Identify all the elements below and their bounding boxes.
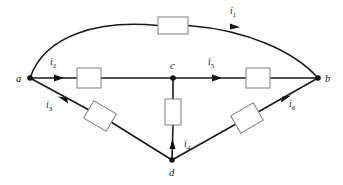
circuit-schematic-svg: i1 i2 i3 — [0, 0, 343, 185]
node-dot-d — [169, 157, 175, 163]
arrowhead-i1 — [230, 24, 240, 30]
wire-i3-lower — [111, 122, 172, 160]
resistor-i6 — [231, 103, 264, 133]
node-dot-b — [315, 75, 321, 81]
current-label-i2-subscript: 2 — [53, 62, 57, 70]
current-label-i6-subscript: 6 — [292, 104, 296, 112]
branch-i5: i5 — [173, 56, 318, 88]
current-label-i5: i5 — [208, 56, 215, 70]
arrowhead-i2 — [54, 75, 64, 82]
wire-i6-lower — [172, 124, 236, 160]
arrowhead-i5 — [212, 75, 222, 82]
circuit-diagram-canvas: i1 i2 i3 — [0, 0, 343, 185]
node-dot-c — [170, 75, 176, 81]
branch-i4: i4 — [165, 78, 191, 160]
node-label-b: b — [325, 73, 330, 84]
branch-i3: i3 — [30, 78, 172, 160]
current-label-i3-subscript: 3 — [49, 105, 53, 113]
current-label-i1-subscript: 1 — [233, 11, 237, 19]
arrowhead-i4 — [170, 139, 176, 149]
branch-i6: i6 — [172, 78, 318, 160]
node-label-c: c — [170, 60, 175, 71]
node-dot-a — [27, 75, 33, 81]
resistor-i3 — [84, 101, 117, 131]
resistor-i5 — [246, 68, 270, 88]
current-label-i1: i1 — [230, 5, 237, 19]
current-label-i3: i3 — [46, 99, 53, 113]
resistor-i4 — [165, 99, 181, 125]
resistor-i2 — [77, 68, 101, 88]
current-label-i6: i6 — [289, 98, 296, 112]
node-label-d: d — [169, 167, 175, 178]
current-label-i5-subscript: 5 — [211, 62, 215, 70]
node-label-a: a — [16, 73, 21, 84]
resistor-i1 — [158, 17, 188, 34]
current-label-i2: i2 — [50, 56, 57, 70]
branch-i2: i2 — [30, 56, 173, 88]
